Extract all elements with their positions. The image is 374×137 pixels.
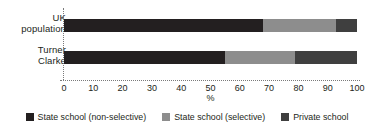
category-label-line: Clarke bbox=[0, 56, 66, 67]
bar-turner-clarke bbox=[64, 51, 357, 64]
legend-item-selective: State school (selective) bbox=[162, 112, 265, 122]
plot-area bbox=[64, 8, 357, 80]
legend-item-private: Private school bbox=[281, 112, 348, 122]
category-label-uk-population: UK population bbox=[0, 13, 66, 34]
legend-item-non-selective: State school (non-selective) bbox=[26, 112, 147, 122]
bar-segment-private bbox=[336, 19, 357, 32]
legend-label: Private school bbox=[293, 112, 348, 122]
bar-segment-non-selective bbox=[64, 51, 225, 64]
bar-segment-selective bbox=[263, 19, 336, 32]
legend-swatch-icon bbox=[162, 113, 170, 121]
x-axis-line bbox=[60, 80, 360, 81]
bar-segment-selective bbox=[225, 51, 295, 64]
category-label-turner-clarke: Turner Clarke bbox=[0, 45, 66, 66]
bar-segment-non-selective bbox=[64, 19, 263, 32]
legend-label: State school (non-selective) bbox=[38, 112, 147, 122]
category-label-line: UK bbox=[0, 13, 66, 24]
bar-uk-population bbox=[64, 19, 357, 32]
category-label-line: Turner bbox=[0, 45, 66, 56]
stacked-bar-chart: UK population Turner Clarke 010203040506… bbox=[0, 0, 374, 137]
bar-segment-private bbox=[295, 51, 357, 64]
legend-swatch-icon bbox=[26, 113, 34, 121]
chart-legend: State school (non-selective) State schoo… bbox=[0, 112, 374, 122]
x-axis-label: % bbox=[64, 93, 357, 103]
legend-swatch-icon bbox=[281, 113, 289, 121]
category-label-line: population bbox=[0, 24, 66, 35]
legend-label: State school (selective) bbox=[174, 112, 265, 122]
